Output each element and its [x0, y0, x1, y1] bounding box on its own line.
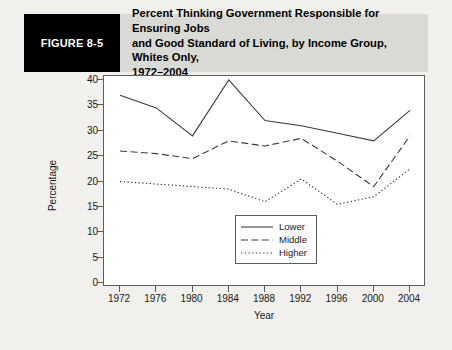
figure-number-badge: FIGURE 8-5: [24, 14, 120, 72]
y-tick-label: 35: [58, 99, 98, 110]
figure-header: FIGURE 8-5 Percent Thinking Government R…: [24, 14, 428, 72]
figure-title-line-1: Percent Thinking Government Responsible …: [132, 6, 418, 36]
legend-label: Lower: [279, 222, 305, 232]
legend-item-middle[interactable]: Middle: [240, 233, 311, 246]
y-axis-title: Percentage: [47, 126, 58, 246]
y-tick-label: 0: [58, 277, 98, 288]
legend-label: Middle: [279, 235, 307, 245]
y-tick-label: 20: [58, 175, 98, 186]
series-line-higher: [120, 169, 410, 205]
legend-item-lower[interactable]: Lower: [240, 220, 311, 233]
series-line-lower: [120, 80, 410, 141]
figure-title-lines: Percent Thinking Government Responsible …: [132, 6, 418, 80]
chart-container: Percentage 0510152025303540 197219761980…: [0, 72, 452, 350]
legend-swatch-higher: [240, 248, 274, 258]
x-axis-title: Year: [103, 310, 425, 321]
legend-swatch-lower: [240, 222, 274, 232]
y-tick-label: 15: [58, 200, 98, 211]
chart-legend: LowerMiddleHigher: [235, 215, 317, 264]
figure-number-label: FIGURE 8-5: [41, 37, 104, 49]
series-line-middle: [120, 136, 410, 187]
y-tick-label: 25: [58, 150, 98, 161]
y-tick-label: 40: [58, 74, 98, 85]
figure-title: Percent Thinking Government Responsible …: [120, 14, 428, 72]
x-tick-label: 2004: [387, 293, 431, 304]
figure-title-line-2: and Good Standard of Living, by Income G…: [132, 36, 418, 66]
legend-label: Higher: [279, 248, 307, 258]
legend-item-higher[interactable]: Higher: [240, 246, 311, 259]
y-tick-label: 5: [58, 251, 98, 262]
y-tick-label: 10: [58, 226, 98, 237]
y-tick-label: 30: [58, 124, 98, 135]
legend-swatch-middle: [240, 235, 274, 245]
